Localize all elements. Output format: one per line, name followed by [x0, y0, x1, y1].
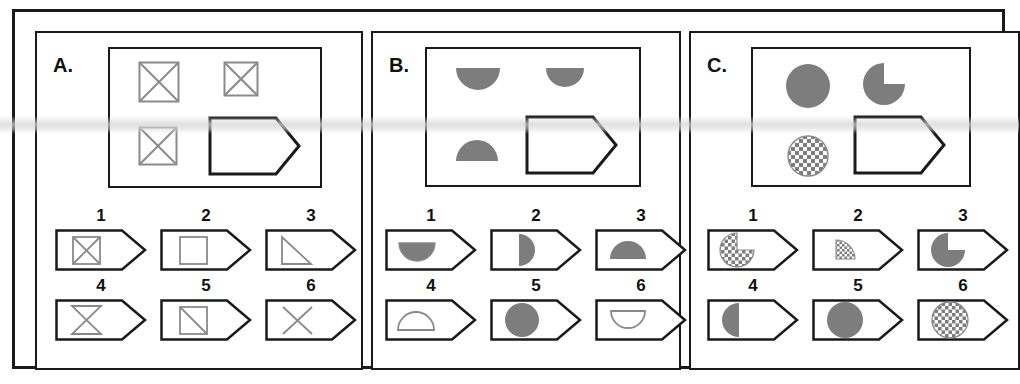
option-c-5[interactable]: 5: [812, 299, 904, 341]
option-b-4[interactable]: 4: [385, 299, 477, 341]
option-tag: [160, 229, 252, 271]
option-tag: [595, 299, 687, 341]
panel-c: C.: [689, 31, 1020, 370]
option-tag: [265, 229, 357, 271]
option-tag: [385, 299, 477, 341]
matrix-cell-circle-checkered: [787, 135, 829, 177]
option-c-2[interactable]: 2: [812, 229, 904, 271]
option-c-6[interactable]: 6: [917, 299, 1009, 341]
option-number: 1: [385, 207, 477, 224]
panel-c-matrix: [751, 47, 971, 187]
matrix-cell-answer-tag: [208, 116, 301, 176]
panel-a-matrix: [108, 47, 322, 188]
option-tag: [917, 229, 1009, 271]
matrix-cell-answer-tag: [525, 115, 618, 175]
option-number: 4: [55, 277, 147, 294]
option-b-3[interactable]: 3: [595, 229, 687, 271]
option-number: 2: [812, 207, 904, 224]
panel-c-letter: C.: [707, 55, 727, 75]
matrix-cell-crossed-square: [138, 126, 178, 166]
panel-a-letter: A.: [53, 55, 73, 75]
matrix-cell-answer-tag: [853, 115, 946, 175]
matrix-cell-pacman: [863, 63, 905, 105]
option-c-3[interactable]: 3: [917, 229, 1009, 271]
option-b-6[interactable]: 6: [595, 299, 687, 341]
option-tag: [55, 229, 147, 271]
matrix-cell-crossed-square: [223, 61, 259, 97]
option-number: 1: [55, 207, 147, 224]
option-a-6[interactable]: 6: [265, 299, 357, 341]
option-number: 6: [595, 277, 687, 294]
option-a-4[interactable]: 4: [55, 299, 147, 341]
option-tag: [917, 299, 1009, 341]
option-number: 1: [707, 207, 799, 224]
option-tag: [385, 229, 477, 271]
outer-frame: A.: [12, 9, 1005, 369]
option-tag: [595, 229, 687, 271]
option-tag: [160, 299, 252, 341]
matrix-cell-circle-filled: [785, 63, 831, 109]
option-a-2[interactable]: 2: [160, 229, 252, 271]
option-tag: [55, 299, 147, 341]
option-tag: [265, 299, 357, 341]
option-tag: [812, 229, 904, 271]
option-number: 4: [707, 277, 799, 294]
option-a-5[interactable]: 5: [160, 299, 252, 341]
option-tag: [707, 299, 799, 341]
option-number: 5: [490, 277, 582, 294]
option-a-1[interactable]: 1: [55, 229, 147, 271]
panel-b-letter: B.: [389, 55, 409, 75]
option-b-1[interactable]: 1: [385, 229, 477, 271]
option-c-4[interactable]: 4: [707, 299, 799, 341]
panel-b-matrix: [425, 47, 641, 187]
option-number: 6: [265, 277, 357, 294]
option-number: 4: [385, 277, 477, 294]
matrix-cell-half-disc-bottom: [455, 67, 501, 93]
option-a-3[interactable]: 3: [265, 229, 357, 271]
matrix-cell-crossed-square: [138, 61, 180, 103]
option-b-2[interactable]: 2: [490, 229, 582, 271]
option-tag: [490, 299, 582, 341]
panel-a: A.: [35, 31, 363, 370]
option-b-5[interactable]: 5: [490, 299, 582, 341]
panel-b: B.: [371, 31, 681, 370]
option-number: 3: [595, 207, 687, 224]
option-number: 5: [812, 277, 904, 294]
option-tag: [490, 229, 582, 271]
option-number: 2: [160, 207, 252, 224]
matrix-cell-half-disc-bottom: [545, 67, 585, 90]
option-number: 5: [160, 277, 252, 294]
option-number: 3: [917, 207, 1009, 224]
option-number: 2: [490, 207, 582, 224]
option-tag: [812, 299, 904, 341]
option-number: 6: [917, 277, 1009, 294]
option-tag: [707, 229, 799, 271]
option-c-1[interactable]: 1: [707, 229, 799, 271]
matrix-cell-half-disc-top: [455, 138, 499, 163]
option-number: 3: [265, 207, 357, 224]
